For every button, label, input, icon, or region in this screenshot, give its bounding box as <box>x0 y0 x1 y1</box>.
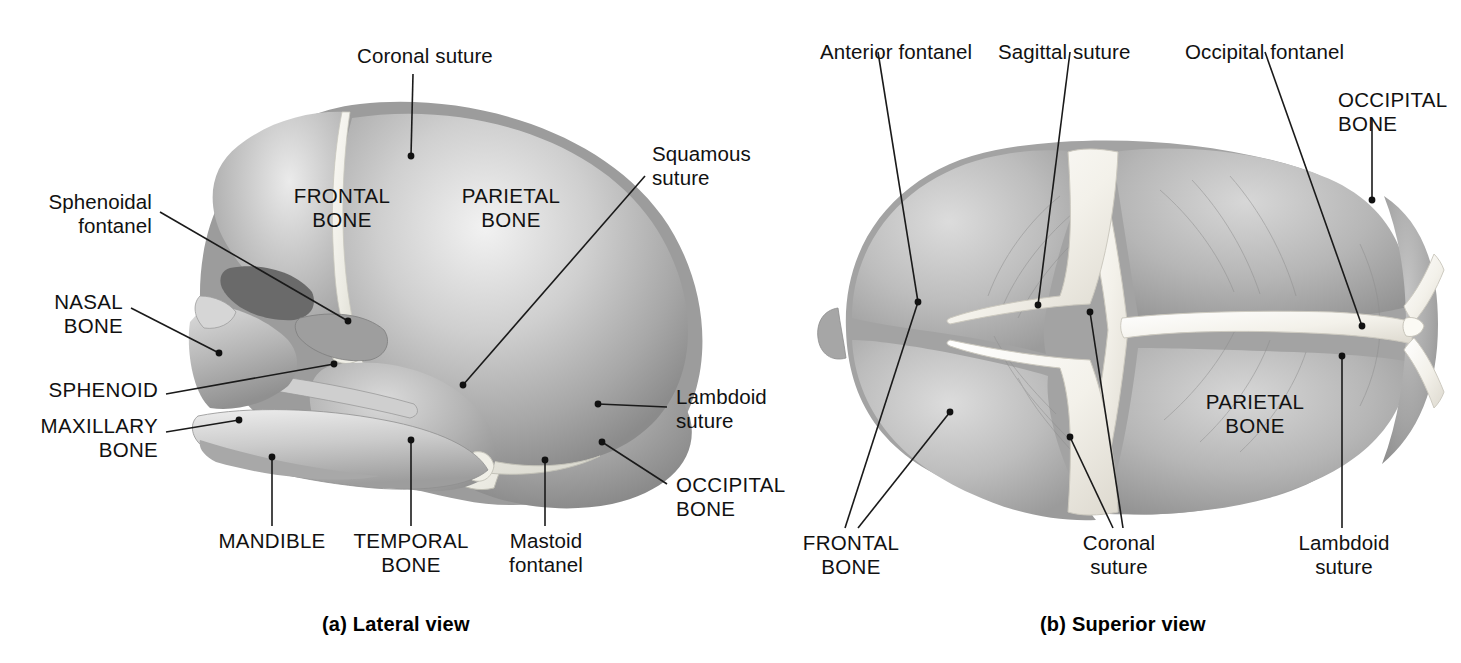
dot-lambdoid-suture-superior <box>1339 353 1346 360</box>
dot-occipital-bone <box>599 439 606 446</box>
dot-lambdoid-suture <box>595 401 602 408</box>
label-lambdoid-suture-lateral: Lambdoid suture <box>676 385 767 433</box>
dot-mandible <box>269 454 276 461</box>
parietal-bone-upper <box>1112 149 1410 327</box>
label-anterior-fontanel: Anterior fontanel <box>820 40 972 64</box>
dot-coronal-suture-superior <box>1067 434 1074 441</box>
dot-occipital-fontanel <box>1359 323 1366 330</box>
dot-occipital-bone-superior <box>1369 197 1376 204</box>
dot-sphenoid <box>331 361 338 368</box>
label-mandible: MANDIBLE <box>202 529 342 553</box>
dot-sphenoidal-fontanel <box>345 318 352 325</box>
label-frontal-bone-superior: FRONTAL BONE <box>781 531 921 579</box>
label-occipital-fontanel: Occipital fontanel <box>1185 40 1344 64</box>
dot-mastoid-fontanel <box>542 457 549 464</box>
panel-lateral-view: FRONTAL BONE PARIETAL BONE Coronal sutur… <box>0 0 760 663</box>
label-frontal-bone-lateral: FRONTAL BONE <box>282 184 402 232</box>
dot-sagittal-suture <box>1035 302 1042 309</box>
label-occipital-bone-superior: OCCIPITAL BONE <box>1338 88 1447 136</box>
dot-coronal-suture-superior-2 <box>1087 309 1094 316</box>
figure-root: FRONTAL BONE PARIETAL BONE Coronal sutur… <box>0 0 1461 663</box>
label-temporal-bone: TEMPORAL BONE <box>341 529 481 577</box>
label-coronal-suture-lateral: Coronal suture <box>357 44 493 68</box>
dot-maxillary-bone <box>236 417 243 424</box>
caption-superior-view: (b) Superior view <box>1040 613 1200 636</box>
label-squamous-suture: Squamous suture <box>652 142 751 190</box>
dot-frontal-bone-superior <box>947 409 954 416</box>
label-coronal-suture-superior: Coronal suture <box>1056 531 1182 579</box>
label-nasal-bone: NASAL BONE <box>0 290 123 338</box>
label-parietal-bone-superior: PARIETAL BONE <box>1190 390 1320 438</box>
caption-lateral-view: (a) Lateral view <box>322 613 462 636</box>
dot-temporal-bone <box>408 437 415 444</box>
nasal-prominence <box>818 308 846 359</box>
dot-coronal-suture <box>408 153 415 160</box>
label-sphenoid: SPHENOID <box>0 378 158 402</box>
label-mastoid-fontanel: Mastoid fontanel <box>487 529 605 577</box>
label-maxillary-bone: MAXILLARY BONE <box>0 414 158 462</box>
dot-anterior-fontanel <box>915 299 922 306</box>
dot-squamous-suture <box>460 382 467 389</box>
label-parietal-bone-lateral: PARIETAL BONE <box>446 184 576 232</box>
label-lambdoid-suture-superior: Lambdoid suture <box>1281 531 1407 579</box>
label-sagittal-suture: Sagittal suture <box>998 40 1131 64</box>
dot-nasal-bone <box>216 350 223 357</box>
panel-superior-view: PARIETAL BONE Anterior fontanel Sagittal… <box>760 0 1461 663</box>
label-sphenoidal-fontanel: Sphenoidal fontanel <box>0 190 152 238</box>
